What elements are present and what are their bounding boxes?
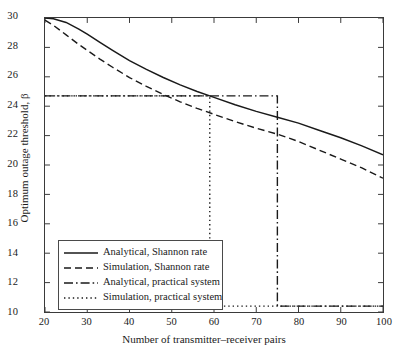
legend-item: Simulation, practical system [63,290,217,305]
legend-line-sample [63,262,99,274]
x-tick-label: 80 [279,317,319,328]
figure-container: 1012141618202224262830 20304050607080901… [0,0,408,363]
y-tick-label: 16 [0,218,18,229]
legend-label: Simulation, practical system [103,292,222,303]
legend-item: Analytical, practical system [63,275,217,290]
legend-label: Analytical, Shannon rate [103,247,207,258]
y-tick-label: 26 [0,70,18,81]
y-tick-label: 24 [0,100,18,111]
legend-item: Analytical, Shannon rate [63,245,217,260]
x-tick-label: 100 [364,317,404,328]
x-tick-label: 40 [109,317,149,328]
x-tick-label: 90 [322,317,362,328]
y-tick-label: 20 [0,159,18,170]
x-tick-label: 50 [152,317,192,328]
y-tick-label: 10 [0,307,18,318]
y-tick-label: 28 [0,41,18,52]
x-axis-label: Number of transmitter–receiver pairs [0,333,408,345]
legend-item: Simulation, Shannon rate [63,260,217,275]
x-tick-label: 70 [237,317,277,328]
y-tick-label: 30 [0,11,18,22]
legend: Analytical, Shannon rateSimulation, Shan… [58,240,223,310]
legend-line-sample [63,292,99,304]
y-tick-label: 18 [0,189,18,200]
legend-label: Analytical, practical system [103,277,220,288]
x-tick-label: 60 [194,317,234,328]
y-axis-label: Optimum outage threshold, β [18,38,30,278]
y-tick-label: 14 [0,248,18,259]
legend-line-sample [63,247,99,259]
y-tick-label: 22 [0,129,18,140]
legend-line-sample [63,277,99,289]
x-tick-label: 20 [24,317,64,328]
x-tick-label: 30 [67,317,107,328]
y-tick-label: 12 [0,277,18,288]
legend-label: Simulation, Shannon rate [103,262,209,273]
